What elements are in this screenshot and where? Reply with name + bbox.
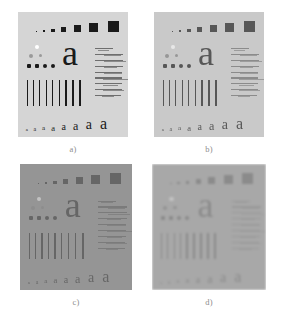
dark-dot — [51, 64, 55, 68]
vertical-bar — [48, 233, 49, 259]
texture-line — [107, 237, 123, 238]
graduated-letter-row: aaaaaaaa — [162, 110, 259, 133]
graduated-letter-a: a — [222, 118, 228, 132]
texture-line — [241, 219, 255, 220]
graduated-square — [187, 29, 191, 33]
graduated-letter-a: a — [75, 273, 80, 285]
test-chart-b: aaaaaaaaa — [154, 12, 264, 137]
dot-cluster — [27, 45, 64, 74]
graduated-letter-a: a — [36, 279, 39, 285]
vertical-bar-group — [29, 233, 94, 259]
texture-line — [240, 73, 259, 74]
texture-line — [234, 50, 245, 51]
texture-line — [240, 231, 265, 232]
square-row — [38, 170, 128, 184]
texture-line — [240, 237, 256, 238]
vertical-bar — [174, 233, 175, 259]
graduated-square — [74, 25, 81, 32]
graduated-square — [208, 177, 215, 184]
graduated-square — [76, 177, 83, 184]
texture-line — [240, 61, 262, 62]
graduated-letter-a: a — [33, 126, 36, 132]
vertical-bar — [214, 233, 216, 259]
highlight-dot — [171, 45, 176, 50]
texture-line — [104, 61, 126, 62]
graduated-square — [63, 179, 68, 184]
graduated-letter-a: a — [186, 276, 190, 285]
panel-caption-b: b) — [154, 144, 264, 154]
chart-inner-c: aaaaaaaaa — [20, 164, 132, 290]
texture-line — [103, 90, 124, 91]
graduated-square — [89, 23, 98, 32]
chart-inner-d: aaaaaaaaa — [152, 164, 266, 290]
graduated-letter-a: a — [236, 116, 243, 132]
mid-gray-dot — [165, 54, 169, 58]
chart-inner-a: aaaaaaaaa — [18, 12, 128, 137]
mid-gray-dot — [31, 206, 35, 210]
mid-gray-dot — [29, 54, 33, 58]
vertical-bar — [188, 80, 190, 106]
test-chart-c: aaaaaaaaa — [20, 164, 132, 290]
texture-line — [104, 67, 117, 68]
texture-line — [242, 208, 259, 209]
highlight-dot — [35, 45, 40, 50]
vertical-bar-group — [27, 80, 91, 106]
vertical-bar-group — [163, 80, 227, 106]
graduated-letter-a: a — [64, 275, 68, 285]
graduated-square — [179, 30, 182, 33]
dark-dot — [27, 64, 31, 68]
texture-line — [98, 50, 109, 51]
texture-line — [103, 85, 118, 86]
texture-line — [241, 214, 264, 215]
panel-caption-a: a) — [18, 144, 128, 154]
graduated-square — [110, 173, 121, 184]
graduated-square — [36, 31, 38, 33]
vertical-bar — [208, 80, 210, 106]
graduated-letter-a: a — [86, 118, 92, 132]
graduated-letter-a: a — [196, 275, 200, 285]
panel-c: aaaaaaaaa c) — [20, 164, 132, 312]
graduated-letter-row: aaaaaaaa — [160, 262, 260, 285]
dot-cluster — [163, 45, 200, 74]
graduated-letter-a: a — [198, 122, 202, 132]
panel-b: aaaaaaaaa b) — [154, 12, 264, 157]
large-letter-a: a — [198, 191, 214, 219]
vertical-bar — [169, 80, 170, 106]
vertical-bar — [72, 80, 74, 106]
graduated-square — [186, 181, 190, 185]
vertical-bar — [215, 80, 217, 106]
vertical-bar — [61, 233, 63, 259]
vertical-bar — [33, 80, 34, 106]
graduated-letter-row: aaaaaaaa — [26, 110, 123, 133]
dark-dot — [53, 216, 57, 220]
panel-d: aaaaaaaaa d) — [152, 164, 266, 312]
vertical-bar — [195, 80, 197, 106]
graduated-letter-a: a — [53, 276, 57, 285]
dark-dot — [37, 216, 41, 220]
graduated-letter-a: a — [42, 125, 45, 132]
mid-gray-dot — [163, 206, 167, 210]
graduated-letter-a: a — [220, 271, 226, 285]
square-row — [172, 18, 260, 32]
square-row — [36, 18, 124, 32]
graduated-letter-a: a — [209, 120, 214, 132]
dark-dot — [45, 216, 49, 220]
graduated-letter-a: a — [26, 127, 28, 132]
panel-caption-d: d) — [152, 297, 266, 307]
vertical-bar — [79, 80, 81, 106]
texture-line — [239, 85, 254, 86]
vertical-bar — [182, 80, 183, 106]
texture-line — [108, 214, 131, 215]
texture-line — [106, 243, 127, 244]
texture-line — [102, 96, 114, 97]
graduated-letter-a: a — [176, 278, 179, 285]
graduated-square — [91, 175, 100, 184]
texture-line — [241, 225, 261, 226]
vertical-bar — [59, 80, 61, 106]
graduated-square — [224, 175, 233, 184]
graduated-letter-a: a — [187, 124, 191, 133]
graduated-letter-a: a — [73, 120, 78, 132]
vertical-bar — [29, 233, 30, 259]
graduated-letter-a: a — [88, 271, 94, 285]
graduated-letter-a: a — [28, 280, 30, 285]
